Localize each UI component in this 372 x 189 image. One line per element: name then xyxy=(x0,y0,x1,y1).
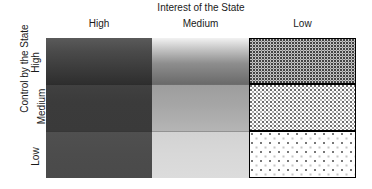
column-header-low: Low xyxy=(249,17,356,30)
matrix-figure: Interest of the State High Medium Low Co… xyxy=(0,0,372,188)
matrix-cell-medium-high xyxy=(46,84,152,131)
row-separator-1 xyxy=(46,84,249,85)
matrix-cell-high-low xyxy=(249,38,356,84)
row-header-low: Low xyxy=(30,110,41,189)
matrix-cell-low-medium xyxy=(152,131,249,178)
matrix-grid xyxy=(46,38,356,178)
matrix-cell-high-high xyxy=(46,38,152,84)
matrix-cell-medium-medium xyxy=(152,84,249,131)
row-separator-2 xyxy=(46,131,249,132)
row-axis-title: Control by the State xyxy=(19,4,30,134)
column-header-medium: Medium xyxy=(152,17,249,30)
matrix-cell-low-high xyxy=(46,131,152,178)
matrix-cell-high-medium xyxy=(152,38,249,84)
matrix-cell-low-low xyxy=(249,131,356,178)
column-header-high: High xyxy=(46,17,152,30)
column-axis-title: Interest of the State xyxy=(46,2,356,14)
column-header-row: High Medium Low xyxy=(46,17,356,32)
matrix-cell-medium-low xyxy=(249,84,356,131)
